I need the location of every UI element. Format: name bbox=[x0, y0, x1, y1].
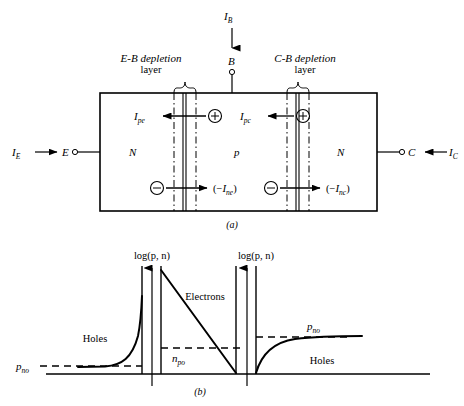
holes-curve-emitter bbox=[78, 296, 142, 367]
electron-current-label-collector: (−Inc) bbox=[326, 182, 350, 197]
base-current-label: IB bbox=[223, 10, 233, 25]
npo-level-label: npo bbox=[172, 352, 185, 367]
cb-depletion-lines bbox=[287, 93, 309, 211]
region-label-base: p bbox=[233, 146, 240, 158]
collector-terminal-label: C bbox=[408, 146, 416, 158]
holes-label-collector: Holes bbox=[310, 355, 335, 366]
hole-current-label-emitter: Ipe bbox=[133, 110, 145, 125]
electrons-label-base: Electrons bbox=[185, 291, 225, 302]
emitter-terminal-node[interactable] bbox=[72, 149, 77, 154]
eb-depletion-label-line2: layer bbox=[141, 64, 162, 75]
cb-depletion-brace bbox=[287, 82, 309, 93]
caption-a: (a) bbox=[226, 219, 238, 231]
pno-level-label-right: pno bbox=[306, 320, 320, 335]
cb-depletion-label-line1: C-B depletion bbox=[274, 52, 336, 64]
cb-depletion-label-line2: layer bbox=[295, 64, 316, 75]
pno-level-label-left: pno bbox=[15, 360, 29, 375]
axis-label-left: log(p, n) bbox=[134, 250, 171, 262]
base-terminal-node[interactable] bbox=[229, 69, 234, 74]
transistor-figure: IB B E-B depletion layer C-B depletion l… bbox=[0, 0, 464, 406]
eb-depletion-lines bbox=[174, 93, 196, 211]
collector-current-label: IC bbox=[448, 146, 459, 161]
electron-current-label-emitter: (−Ine) bbox=[213, 182, 237, 197]
base-terminal-label: B bbox=[228, 55, 235, 67]
eb-depletion-label-line1: E-B depletion bbox=[120, 52, 182, 64]
figure-root: IB B E-B depletion layer C-B depletion l… bbox=[0, 0, 464, 406]
emitter-terminal-label: E bbox=[61, 146, 69, 158]
caption-b: (b) bbox=[194, 386, 206, 398]
emitter-current-label: IE bbox=[11, 146, 21, 161]
axis-label-right: log(p, n) bbox=[238, 250, 275, 262]
collector-terminal-node[interactable] bbox=[399, 149, 404, 154]
hole-current-label-collector: Ipc bbox=[239, 110, 251, 125]
region-label-emitter: N bbox=[128, 146, 137, 158]
holes-label-emitter: Holes bbox=[83, 333, 108, 344]
eb-depletion-brace bbox=[174, 82, 196, 93]
region-label-collector: N bbox=[336, 146, 345, 158]
